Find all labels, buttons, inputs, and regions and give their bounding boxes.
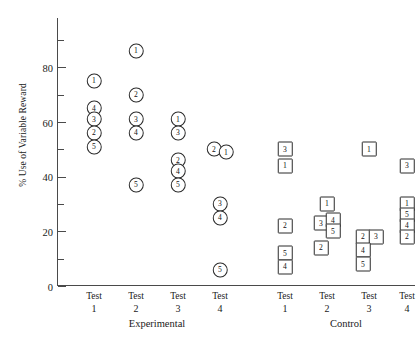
- y-tick-minor: [58, 204, 64, 205]
- y-tick-major: 40: [58, 177, 66, 178]
- x-tick-label: Test2: [319, 291, 335, 314]
- data-point-circle: 5: [87, 139, 102, 154]
- x-tick-label-line2: 4: [212, 303, 228, 315]
- y-tick-label: 0: [48, 281, 53, 292]
- x-tick-label-line2: 2: [128, 303, 144, 315]
- y-tick-minor: [58, 40, 64, 41]
- x-tick-label-line1: Test: [128, 291, 144, 303]
- data-point-circle: 2: [129, 87, 144, 102]
- y-axis-title: % Use of Variable Reward: [18, 45, 28, 225]
- y-tick-minor: [58, 149, 64, 150]
- y-tick-label: 60: [43, 117, 54, 128]
- x-tick-label-line1: Test: [361, 291, 377, 303]
- x-tick-label: Test4: [212, 291, 228, 314]
- data-point-circle: 5: [213, 262, 228, 277]
- y-tick-major: 80: [58, 67, 66, 68]
- data-point-circle: 4: [213, 210, 228, 225]
- data-point-square: 2: [278, 218, 293, 233]
- data-point-circle: 1: [219, 145, 234, 160]
- data-point-circle: 5: [129, 177, 144, 192]
- data-point-square: 1: [362, 142, 377, 157]
- x-axis-line: [57, 285, 415, 286]
- data-point-circle: 3: [171, 125, 186, 140]
- x-tick-label-line2: 4: [399, 303, 415, 315]
- data-point-square: 5: [326, 224, 341, 239]
- y-tick-major: 0: [58, 286, 66, 287]
- y-tick-label: 40: [43, 172, 54, 183]
- data-point-circle: 4: [129, 125, 144, 140]
- data-point-square: 2: [314, 240, 329, 255]
- x-tick-label-line2: 1: [86, 303, 102, 315]
- data-point-circle: 1: [87, 74, 102, 89]
- x-tick-label-line1: Test: [277, 291, 293, 303]
- y-tick-label: 80: [43, 62, 54, 73]
- data-point-square: 3: [400, 158, 415, 173]
- y-tick-major: 20: [58, 231, 66, 232]
- x-tick-label-line1: Test: [212, 291, 228, 303]
- data-point-circle: 5: [171, 177, 186, 192]
- y-tick-major: 60: [58, 122, 66, 123]
- x-tick-label-line2: 3: [170, 303, 186, 315]
- x-tick-label: Test2: [128, 291, 144, 314]
- x-tick-label: Test4: [399, 291, 415, 314]
- data-point-square: 1: [278, 158, 293, 173]
- x-tick-label: Test3: [361, 291, 377, 314]
- scatter-chart: % Use of Variable Reward 020406080 14325…: [0, 0, 419, 339]
- y-tick-label: 20: [43, 226, 54, 237]
- data-point-square: 2: [400, 229, 415, 244]
- y-tick-minor: [58, 95, 64, 96]
- x-tick-label-line2: 1: [277, 303, 293, 315]
- data-point-square: 3: [369, 229, 384, 244]
- data-point-square: 3: [278, 142, 293, 157]
- x-tick-label-line1: Test: [86, 291, 102, 303]
- data-point-square: 5: [356, 257, 371, 272]
- x-tick-label-line1: Test: [399, 291, 415, 303]
- x-tick-label-line2: 2: [319, 303, 335, 315]
- x-tick-label: Test1: [86, 291, 102, 314]
- y-axis-line: [57, 18, 58, 286]
- data-point-square: 1: [320, 197, 335, 212]
- group-label: Experimental: [129, 318, 186, 329]
- group-label: Control: [330, 318, 362, 329]
- x-tick-label-line1: Test: [170, 291, 186, 303]
- x-tick-label-line2: 3: [361, 303, 377, 315]
- plot-area: 020406080 143251234513245213453125413452…: [57, 18, 415, 286]
- x-tick-label-line1: Test: [319, 291, 335, 303]
- data-point-circle: 1: [129, 43, 144, 58]
- x-tick-label: Test3: [170, 291, 186, 314]
- x-tick-label: Test1: [277, 291, 293, 314]
- data-point-square: 4: [278, 259, 293, 274]
- y-tick-minor: [58, 259, 64, 260]
